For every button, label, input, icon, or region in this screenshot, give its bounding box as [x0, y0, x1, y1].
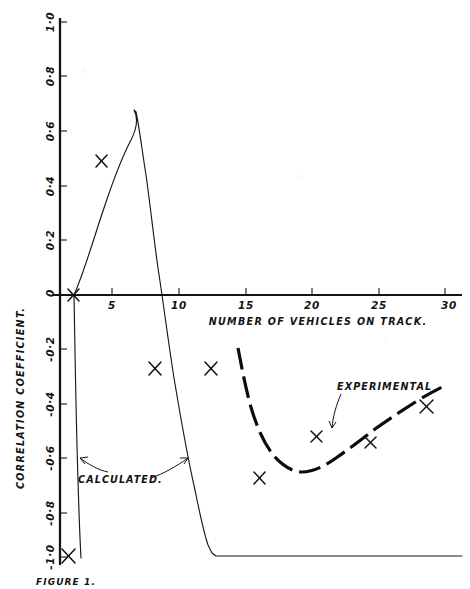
data-marker-24.3--0.6 — [365, 437, 376, 448]
y-tick-label-0.8: 0·8 — [44, 66, 56, 86]
x-axis-title: NUMBER OF VEHICLES ON TRACK. — [209, 316, 428, 327]
y-tick-label--0.4: -0·4 — [44, 391, 56, 416]
series-calculated — [74, 110, 462, 558]
y-tick-labels-group: 1·0 0·8 0·6 0·4 0·2 0 -0·2 -0·4 -0·6 -0·… — [44, 12, 56, 570]
x-tick-label-25: 25 — [371, 299, 387, 311]
experimental-label: EXPERIMENTAL — [337, 381, 432, 392]
y-tick-label--0.6: -0·6 — [44, 445, 56, 470]
y-tick-label--1.0: -1·0 — [44, 544, 56, 569]
data-marker-12--0.325 — [205, 362, 217, 375]
experimental-curve — [238, 348, 446, 472]
calculated-curve-main — [74, 110, 462, 556]
calculated-annotation-group: CALCULATED. — [78, 457, 188, 485]
experimental-annotation-group: EXPERIMENTAL — [329, 381, 432, 428]
data-marker-20.9--0.715 — [311, 431, 322, 442]
data-marker-16.4--0.885 — [254, 472, 265, 484]
data-marker-3-0.5 — [96, 155, 107, 167]
series-experimental — [238, 348, 446, 472]
calculated-curve-left-branch — [74, 295, 81, 558]
data-marker-9.7--0.325 — [149, 362, 161, 375]
y-tick-label-0.2: 0·2 — [44, 230, 56, 250]
x-tick-label-20: 20 — [304, 299, 320, 311]
y-tick-label-0.6: 0·6 — [44, 121, 56, 141]
y-tick-label--0.2: -0·2 — [44, 336, 56, 361]
figure-caption: FIGURE 1. — [36, 577, 96, 587]
y-axis-title: CORRELATION COEFFICIENT. — [15, 307, 26, 489]
figure-container: 1·0 0·8 0·6 0·4 0·2 0 -0·2 -0·4 -0·6 -0·… — [0, 0, 470, 589]
data-marker-28.5--0.465 — [420, 400, 433, 413]
data-marker-1.25--1.0 — [62, 549, 75, 563]
x-tick-label-5: 5 — [108, 299, 116, 311]
x-tick-label-30: 30 — [441, 299, 457, 311]
calculated-leader-left — [80, 458, 108, 472]
y-tick-label-1.0: 1·0 — [44, 12, 56, 32]
y-tick-label-0.4: 0·4 — [44, 176, 56, 196]
x-tick-label-15: 15 — [238, 299, 254, 311]
x-tick-label-10: 10 — [171, 299, 187, 311]
chart-canvas: 1·0 0·8 0·6 0·4 0·2 0 -0·2 -0·4 -0·6 -0·… — [0, 0, 470, 589]
calculated-label: CALCULATED. — [78, 474, 163, 485]
experimental-leader — [332, 394, 341, 428]
data-markers-group — [62, 155, 433, 563]
y-tick-label-0: 0 — [44, 289, 56, 297]
x-tick-labels-group: 5 10 15 20 25 30 — [108, 299, 457, 311]
y-tick-label--0.8: -0·8 — [44, 500, 56, 525]
